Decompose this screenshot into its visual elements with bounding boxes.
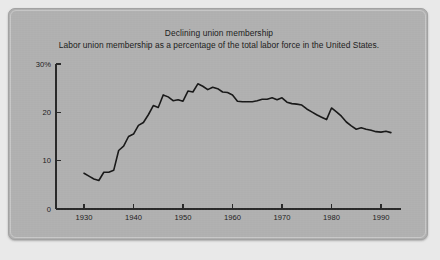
y-tick-label: 10 [43, 156, 51, 165]
y-tick-label: 30% [36, 60, 51, 69]
x-tick-label: 1980 [323, 213, 340, 222]
y-tick-label: 0 [47, 205, 51, 214]
x-tick-label: 1990 [373, 213, 390, 222]
figure-root: Declining union membership Labor union m… [0, 0, 440, 260]
chart-panel: Declining union membership Labor union m… [8, 8, 428, 240]
x-tick-label: 1930 [76, 213, 93, 222]
x-tick-label: 1950 [175, 213, 192, 222]
x-axis: 1930194019501960197019801990 [76, 204, 390, 222]
y-axis: 30%20100 [36, 60, 61, 214]
y-tick-label: 20 [43, 108, 51, 117]
union-membership-line [84, 84, 391, 181]
line-chart-plot: 30%20100 1930194019501960197019801990 [9, 9, 428, 240]
x-tick-label: 1970 [274, 213, 291, 222]
x-tick-label: 1960 [224, 213, 241, 222]
x-tick-label: 1940 [125, 213, 142, 222]
caption-strip [10, 250, 430, 260]
